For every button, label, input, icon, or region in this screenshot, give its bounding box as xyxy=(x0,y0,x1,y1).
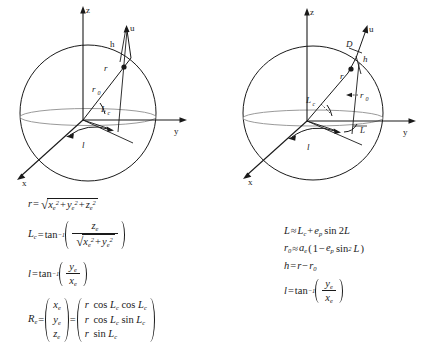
geocentric-latitude-equation: Lc= tan−1 ze √xe2+ye2 xyxy=(28,220,220,249)
h-label: h xyxy=(110,39,115,49)
right-diagram: z y x u D h xyxy=(220,0,440,192)
y-axis-label: y xyxy=(403,127,408,137)
longitude-equation: l= tan−1 ye xe xyxy=(28,261,220,288)
u-label: u xyxy=(130,23,135,33)
r0-label: r xyxy=(360,90,364,100)
Lc-label: L xyxy=(100,104,106,114)
u-label: u xyxy=(369,24,374,34)
L-label: L xyxy=(359,125,365,135)
Lc-subscript: c xyxy=(108,110,111,116)
y-axis-arrowhead xyxy=(180,117,188,122)
z-axis-label: z xyxy=(310,7,314,17)
l-angle-arrowhead xyxy=(288,135,296,141)
x-axis xyxy=(247,121,307,175)
r-label: r xyxy=(104,63,108,73)
surface-point-marker xyxy=(348,66,353,71)
l-label: l xyxy=(82,140,85,150)
r0-label: r xyxy=(92,84,96,94)
x-axis xyxy=(21,120,83,176)
position-vector-equation: Re= xe ye ze = r cos Lc cos Lc r cos Lc xyxy=(28,298,220,342)
u-dropline xyxy=(352,63,359,134)
altitude-equation: h= r− r0 xyxy=(284,261,440,272)
z-axis-label: z xyxy=(86,5,90,15)
right-equation-block: L≈ Lc+ ep sin 2L r0≈ ae (1− ep sin2 L) h… xyxy=(220,226,440,304)
u-arrowhead xyxy=(362,25,368,33)
D-label: D xyxy=(345,39,353,49)
r-label: r xyxy=(340,71,344,81)
equatorial-ellipse xyxy=(20,109,156,126)
r0-leader-arrowhead xyxy=(346,93,352,97)
x-axis-label: x xyxy=(248,177,253,187)
Lc-subscript: c xyxy=(313,101,316,107)
x-axis-label: x xyxy=(22,178,27,188)
l-angle-arc xyxy=(70,127,108,135)
left-equation-block: r= √ xe2+ye2+ze2 Lc= tan−1 ze √xe2+ye2 xyxy=(0,196,220,342)
r0-subscript: 0 xyxy=(366,96,369,102)
h-label: h xyxy=(363,54,368,64)
longitude-equation: l= tan−1 ye xe xyxy=(284,278,440,305)
y-axis-arrowhead xyxy=(409,118,417,123)
y-axis-label: y xyxy=(174,126,179,136)
u-vector xyxy=(127,30,131,58)
Lc-label: L xyxy=(305,95,311,105)
z-axis-arrowhead xyxy=(80,6,86,14)
left-panel: z y x u h r xyxy=(0,0,220,340)
geodetic-latitude-equation: L≈ Lc+ ep sin 2L xyxy=(284,226,440,237)
left-diagram: z y x u h r xyxy=(0,0,220,192)
radius-equation: r= √ xe2+ye2+ze2 xyxy=(28,198,220,211)
ellipsoid-radius-equation: r0≈ ae (1− ep sin2 L) xyxy=(284,243,440,254)
r0-subscript: 0 xyxy=(98,90,101,96)
z-axis-arrowhead xyxy=(304,8,310,16)
h-segment xyxy=(120,28,126,62)
right-panel: z y x u D h xyxy=(220,0,440,340)
l-label: l xyxy=(307,142,310,152)
